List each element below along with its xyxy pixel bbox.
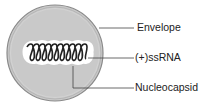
- rna-label: (+)ssRNA: [135, 51, 181, 63]
- nucleocapsid-coil: [24, 42, 92, 64]
- envelope-label: Envelope: [137, 21, 181, 33]
- nucleocapsid-label: Nucleocapsid: [135, 81, 198, 93]
